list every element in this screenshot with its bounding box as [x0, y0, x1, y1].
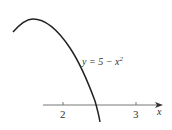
parabola-curve	[13, 19, 100, 122]
x-axis-label: x	[156, 106, 162, 117]
graph: 2 3 x y = 5 − x2	[0, 0, 172, 130]
curve-label: y = 5 − x2	[81, 55, 123, 67]
x-tick-label-3: 3	[133, 108, 139, 120]
x-tick-label-2: 2	[60, 108, 66, 120]
